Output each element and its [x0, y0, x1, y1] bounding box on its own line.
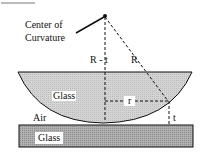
air-label: Air [33, 113, 46, 123]
center-label: Center of [25, 20, 63, 30]
lens-glass-label: Glass [52, 91, 76, 101]
r-minus-t-label: R - t [90, 55, 108, 65]
plate-glass-label: Glass [35, 132, 63, 144]
pointer-line [76, 17, 104, 33]
small-r-label: r [124, 96, 135, 106]
radius-label: R [131, 55, 138, 65]
curvature-label: Curvature [25, 33, 65, 43]
thickness-label: t [173, 113, 176, 123]
